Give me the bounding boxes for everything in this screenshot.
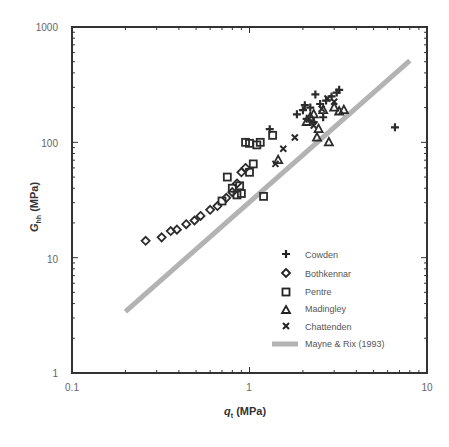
svg-text:Chattenden: Chattenden bbox=[305, 322, 352, 332]
legend-item-mayne-rix: Mayne & Rix (1993) bbox=[272, 339, 385, 349]
tick-labels: 0.11101101001000 bbox=[36, 22, 433, 393]
diamond-marker-icon bbox=[213, 202, 221, 210]
svg-text:Mayne & Rix (1993): Mayne & Rix (1993) bbox=[305, 339, 385, 349]
mayne-rix-line bbox=[125, 61, 409, 312]
plus-marker-icon bbox=[319, 113, 327, 121]
legend: Cowden Bothkennar Pentre Madingley Chatt… bbox=[272, 250, 385, 349]
plus-marker-icon bbox=[311, 90, 319, 98]
y-axis-title: Ghh (MPa) bbox=[28, 182, 42, 232]
diamond-marker-icon bbox=[206, 206, 214, 214]
cross-marker-icon bbox=[292, 135, 298, 141]
x-tick-label: 10 bbox=[421, 382, 433, 393]
y-tick-label: 100 bbox=[41, 138, 58, 149]
square-marker-icon bbox=[283, 289, 290, 296]
triangle-marker-icon bbox=[325, 138, 333, 146]
triangle-marker-icon bbox=[340, 106, 348, 114]
y-tick-label: 1000 bbox=[36, 22, 59, 33]
x-tick-label: 0.1 bbox=[65, 382, 79, 393]
legend-item-madingley: Madingley bbox=[282, 304, 347, 314]
legend-item-pentre: Pentre bbox=[283, 287, 332, 297]
svg-text:Madingley: Madingley bbox=[305, 304, 347, 314]
diamond-marker-icon bbox=[182, 220, 190, 228]
chart-canvas: 0.11101101001000 qt (MPa) Ghh (MPa) Cowd… bbox=[0, 0, 449, 447]
plus-marker-icon bbox=[282, 250, 290, 258]
square-marker-icon bbox=[224, 174, 231, 181]
legend-item-chattenden: Chattenden bbox=[283, 322, 352, 332]
cross-marker-icon bbox=[280, 146, 286, 152]
triangle-marker-icon bbox=[282, 306, 290, 313]
x-tick-label: 1 bbox=[246, 382, 252, 393]
cross-marker-icon bbox=[283, 323, 289, 329]
y-tick-label: 10 bbox=[47, 254, 59, 265]
diamond-marker-icon bbox=[158, 233, 166, 241]
diamond-marker-icon bbox=[282, 269, 290, 277]
svg-text:Pentre: Pentre bbox=[305, 287, 332, 297]
svg-text:Bothkennar: Bothkennar bbox=[305, 269, 351, 279]
plus-marker-icon bbox=[391, 123, 399, 131]
data-points bbox=[142, 86, 399, 245]
y-tick-label: 1 bbox=[52, 368, 58, 379]
diamond-marker-icon bbox=[142, 237, 150, 245]
square-marker-icon bbox=[250, 160, 257, 167]
x-axis-title: qt (MPa) bbox=[224, 405, 266, 419]
svg-text:Cowden: Cowden bbox=[305, 250, 338, 260]
plus-marker-icon bbox=[293, 110, 301, 118]
legend-item-cowden: Cowden bbox=[282, 250, 338, 260]
legend-item-bothkennar: Bothkennar bbox=[282, 269, 351, 279]
